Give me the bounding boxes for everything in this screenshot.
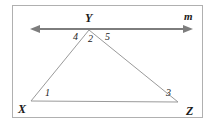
angle-label-2: 2 (88, 33, 93, 44)
vertex-label-y: Y (85, 11, 94, 25)
angle-label-4: 4 (73, 31, 78, 42)
line-m-right-arrowhead (183, 25, 193, 33)
side-xz (31, 101, 178, 102)
side-xy (31, 30, 89, 101)
geometry-figure: X Y Z m 1 2 3 4 5 (0, 0, 214, 124)
angle-label-5: 5 (105, 31, 110, 42)
line-label-m: m (184, 10, 193, 22)
angle-label-1: 1 (45, 87, 50, 98)
line-m-left-arrowhead (30, 25, 40, 33)
side-yz (89, 30, 178, 102)
line-m (30, 25, 193, 33)
vertex-label-x: X (17, 102, 27, 116)
figure-canvas: X Y Z m 1 2 3 4 5 (0, 0, 214, 124)
angle-label-3: 3 (165, 87, 171, 98)
vertex-label-z: Z (185, 104, 194, 118)
